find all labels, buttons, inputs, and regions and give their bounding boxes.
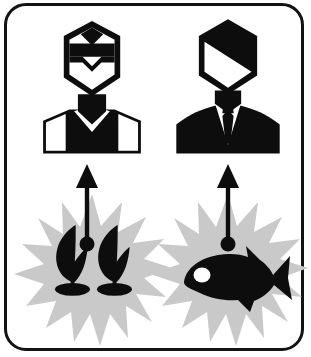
diagram-artwork bbox=[0, 0, 311, 357]
panel-left bbox=[14, 21, 172, 346]
diagram-canvas: Genetically modified organisms benefit p… bbox=[0, 0, 311, 357]
businessman-bust-icon bbox=[176, 19, 279, 153]
starburst-icon bbox=[14, 194, 172, 346]
panel-right bbox=[150, 19, 308, 346]
worker-bust-icon bbox=[43, 21, 141, 154]
